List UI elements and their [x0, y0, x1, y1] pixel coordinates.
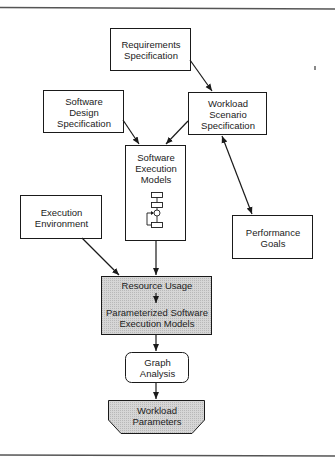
speck [314, 66, 316, 70]
label-line: Graph [144, 357, 170, 368]
edge-environment-to-resource [82, 238, 119, 275]
label-resource-usage: Resource Usage [102, 278, 212, 292]
label-line: Requirements [121, 39, 180, 50]
label-software-execution-models: Software Execution Models [126, 150, 186, 186]
label-line: Specification [201, 120, 255, 131]
label-line: Software [137, 152, 175, 163]
label-performance-goals: Performance Goals [233, 216, 313, 259]
label-line: Execution [135, 163, 177, 174]
label-line: Parameterized Software [106, 307, 208, 318]
label-workload-scenario: Workload Scenario Specification [189, 93, 267, 135]
label-workload-parameters: Workload Parameters [109, 403, 205, 429]
label-requirements: Requirements Specification [111, 29, 191, 71]
label-line: Software [65, 96, 103, 107]
label-line: Performance [246, 227, 300, 238]
label-execution-environment: Execution Environment [21, 196, 102, 239]
edge-workload-to-execution [166, 121, 188, 144]
edge-workload-performance [222, 136, 252, 214]
label-line: Execution [41, 207, 83, 218]
label-line: Analysis [140, 368, 175, 379]
label-graph-analysis: Graph Analysis [126, 353, 189, 383]
label-line: Design [69, 107, 99, 118]
label-line: Workload [137, 405, 177, 416]
edge-requirements-to-workload [190, 60, 212, 91]
label-line: Parameters [132, 416, 181, 427]
label-line: Resource Usage [122, 280, 193, 291]
bottom-rule [0, 455, 335, 456]
label-software-design: Software Design Specification [44, 91, 124, 133]
label-line: Execution Models [120, 318, 195, 329]
label-line: Models [141, 174, 172, 185]
label-line: Specification [57, 118, 111, 129]
edge-design-to-execution [123, 120, 139, 144]
label-line: Scenario [209, 109, 247, 120]
label-line: Goals [261, 238, 286, 249]
label-parameterized-models: Parameterized Software Execution Models [102, 306, 212, 330]
label-line: Workload [208, 98, 248, 109]
label-line: Specification [124, 50, 178, 61]
top-rule [0, 8, 335, 10]
label-line: Environment [35, 218, 88, 229]
